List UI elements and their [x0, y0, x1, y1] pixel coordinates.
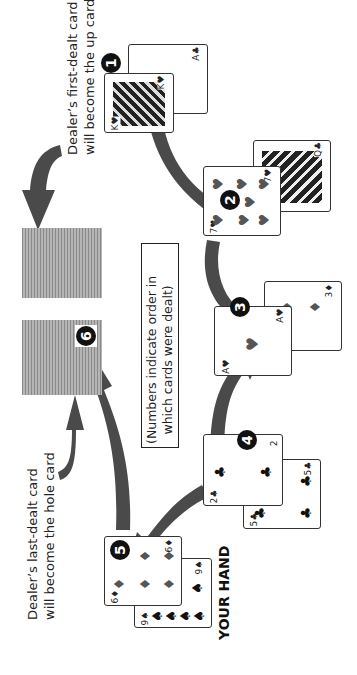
- badge-6: 6: [75, 325, 97, 347]
- badge-3: 3: [230, 297, 250, 317]
- your-hand-label: YOUR HAND: [216, 546, 232, 640]
- spade-pip: ♠: [164, 610, 178, 623]
- card-index: A♣: [191, 46, 200, 60]
- card-3-ace-hearts: A♥ A♥ ♥: [214, 306, 292, 376]
- dealer-first-label: Dealer’s first-dealt card will become th…: [64, 0, 98, 155]
- card-index: Q♣: [314, 142, 323, 157]
- card-2-seven-hearts: 7♥ 7♥ ♥ ♥ ♥ ♥ ♥ ♥ ♥: [203, 166, 281, 236]
- card-index: 3♦: [326, 284, 335, 298]
- diamond-pip: ♦: [138, 578, 152, 591]
- spade-pip: ♠: [150, 610, 164, 623]
- club-pip: ♣: [299, 507, 313, 520]
- note-line1: (Numbers indicate order in: [144, 276, 160, 444]
- club-pip: ♣: [299, 475, 313, 488]
- heart-pip: ♥: [237, 214, 251, 227]
- heart-pip: ♥: [235, 178, 249, 191]
- heart-pip: ♥: [211, 178, 225, 191]
- heart-pip: ♥: [246, 337, 260, 351]
- spade-pip: ♠: [192, 610, 206, 623]
- arrow-to-upcard: [22, 145, 62, 230]
- heart-pip: ♥: [257, 178, 271, 191]
- card-index: 9♠: [196, 561, 205, 575]
- badge-1: 1: [101, 53, 121, 73]
- note-line2: which cards were dealt): [160, 276, 176, 444]
- dealer-holecard-slot: 6: [22, 320, 102, 395]
- diamond-pip: ♦: [138, 550, 152, 563]
- dealer-upcard-slot: [22, 228, 102, 298]
- card-index: K♥: [158, 76, 167, 90]
- diamond-pip: ♦: [162, 578, 176, 591]
- heart-pip: ♥: [257, 214, 271, 227]
- dealer-last-line2: will become the hole card: [41, 452, 58, 620]
- spade-pip: ♠: [190, 582, 204, 595]
- diamond-pip: ♦: [308, 301, 322, 314]
- badge-5: 5: [110, 540, 130, 560]
- card-index: A♥: [275, 308, 284, 322]
- card-1-king-hearts: K♥ K♥: [104, 73, 174, 133]
- card-index: 6♦: [111, 590, 120, 604]
- heart-pip: ♥: [243, 196, 257, 209]
- club-pip: ♣: [213, 466, 227, 479]
- club-pip: ♣: [259, 466, 273, 479]
- card-index: 2: [271, 441, 280, 447]
- badge-4: 4: [237, 430, 257, 450]
- card-index: 2♣: [210, 490, 219, 504]
- spade-pip: ♠: [178, 610, 192, 623]
- order-note-text: (Numbers indicate order in which cards w…: [144, 276, 176, 444]
- card-index: 5♣: [305, 462, 314, 476]
- club-pip: ♣: [253, 507, 267, 520]
- diamond-pip: ♦: [162, 550, 176, 563]
- order-note-box: (Numbers indicate order in which cards w…: [141, 243, 179, 448]
- heart-pip: ♥: [211, 214, 225, 227]
- badge-2: 2: [220, 190, 240, 210]
- diamond-pip: ♦: [112, 578, 126, 591]
- card-index: A♥: [222, 359, 231, 373]
- dealer-last-label: Dealer’s last-dealt card will become the…: [24, 452, 58, 620]
- dealer-last-line1: Dealer’s last-dealt card: [24, 452, 41, 620]
- dealer-first-line1: Dealer’s first-dealt card: [64, 0, 81, 155]
- card-index: K♥: [111, 117, 120, 131]
- badge-6-number: 6: [76, 326, 96, 346]
- arrow-to-holecard: [58, 395, 84, 480]
- dealer-first-line2: will become the up card: [81, 0, 98, 155]
